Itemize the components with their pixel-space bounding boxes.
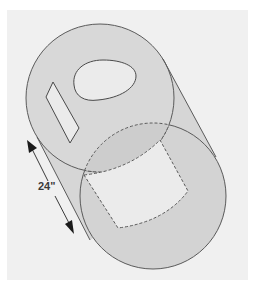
arrowhead-up-icon [27,140,37,153]
arrowhead-down-icon [65,220,74,234]
dimension-label: 24" [38,180,55,192]
cylinder-diagram: 24" [0,0,257,302]
